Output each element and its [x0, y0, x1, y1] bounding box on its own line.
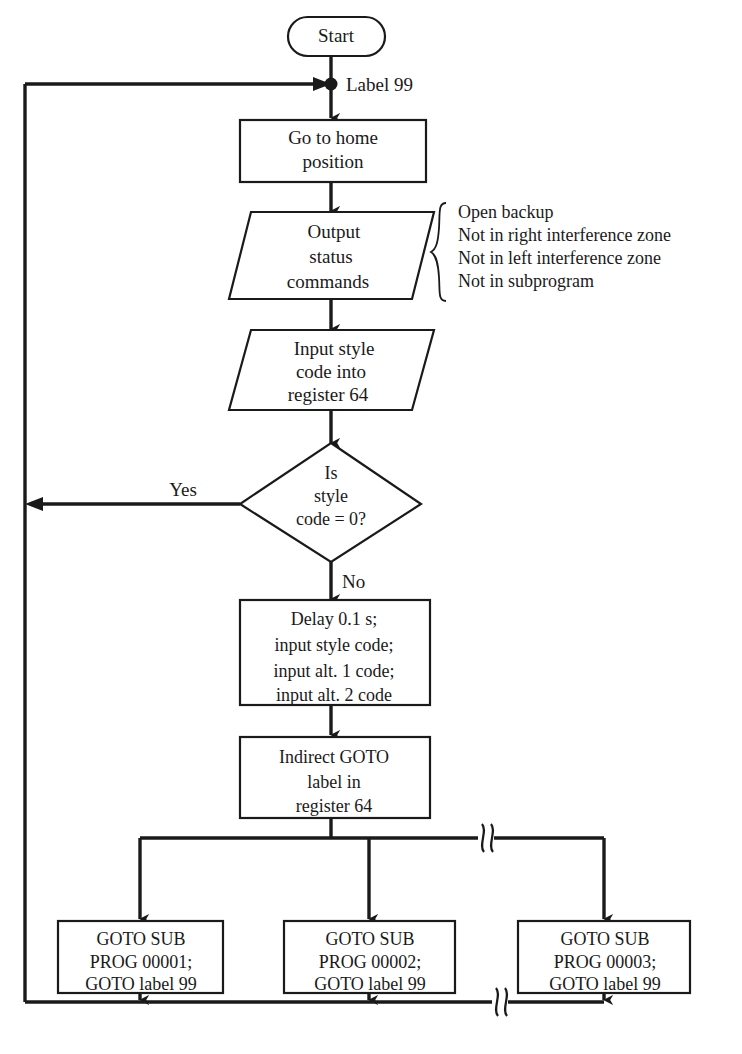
junction-dot-label99	[325, 78, 338, 91]
annotation-note-4: Not in subprogram	[458, 271, 594, 291]
node-delay-line2: input style code;	[275, 635, 394, 655]
node-output-status-line2: status	[309, 246, 352, 267]
node-delay-line3: input alt. 1 code;	[274, 661, 395, 681]
edge-label-yes: Yes	[169, 479, 197, 500]
node-go-to-home-line2: position	[302, 151, 364, 172]
node-output-status-line3: commands	[287, 271, 369, 292]
annotation-note-3: Not in left interference zone	[458, 248, 661, 268]
node-sub3-line1: GOTO SUB	[560, 929, 649, 949]
node-input-style-line3: register 64	[288, 384, 369, 405]
node-sub3-line2: PROG 00003;	[554, 952, 657, 972]
node-decision-line2: style	[314, 486, 348, 506]
node-sub3-line3: GOTO label 99	[549, 974, 661, 994]
node-indirect-line2: label in	[307, 772, 360, 792]
flowchart-svg: Start Go to home position Output status …	[0, 0, 742, 1054]
edge-label-label99: Label 99	[346, 74, 413, 95]
node-sub1-line2: PROG 00001;	[90, 952, 193, 972]
node-sub2-line2: PROG 00002;	[319, 952, 422, 972]
annotation-note-2: Not in right interference zone	[458, 225, 671, 245]
node-indirect-line1: Indirect GOTO	[279, 747, 389, 767]
node-delay-line4: input alt. 2 code	[276, 685, 392, 705]
node-start-label: Start	[318, 25, 355, 46]
flowchart-canvas: Start Go to home position Output status …	[0, 0, 742, 1054]
arrowhead-yes-into-rail	[25, 497, 43, 511]
node-sub1-line3: GOTO label 99	[85, 974, 197, 994]
node-go-to-home-line1: Go to home	[288, 127, 378, 148]
break-mark-distribution-bus	[482, 824, 493, 852]
node-input-style-line2: code into	[296, 361, 366, 382]
annotation-note-1: Open backup	[458, 202, 553, 222]
edge-label-no: No	[342, 571, 365, 592]
node-delay-line1: Delay 0.1 s;	[291, 609, 377, 629]
node-sub2-line3: GOTO label 99	[314, 974, 426, 994]
node-decision-line1: Is	[325, 463, 338, 483]
node-input-style-line1: Input style	[294, 338, 375, 359]
node-sub2-line1: GOTO SUB	[325, 929, 414, 949]
node-indirect-line3: register 64	[296, 796, 372, 816]
node-decision-line3: code = 0?	[296, 509, 366, 529]
node-sub1-line1: GOTO SUB	[96, 929, 185, 949]
break-mark-collector-bus	[496, 988, 507, 1016]
node-output-status-line1: Output	[308, 221, 362, 242]
